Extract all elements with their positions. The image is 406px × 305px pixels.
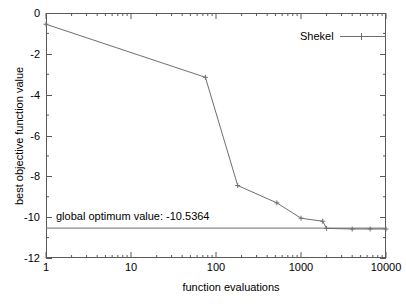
data-point-marker — [350, 227, 355, 232]
data-point-marker — [299, 216, 304, 221]
chart-canvas: 0 -2 -4 -6 -8 -10 -12 1 10 100 1000 1000… — [0, 0, 406, 305]
data-point-marker — [203, 75, 208, 80]
data-point-marker — [324, 226, 329, 231]
data-point-marker — [384, 227, 389, 232]
data-point-marker — [274, 200, 279, 205]
data-point-marker — [235, 183, 240, 188]
data-point-marker — [44, 22, 49, 27]
minor-ticks-group — [46, 13, 386, 258]
data-point-marker — [368, 227, 373, 232]
series-line-shekel — [46, 24, 386, 229]
data-point-marker — [320, 219, 325, 224]
plot-area — [0, 0, 406, 305]
data-series-group — [44, 22, 389, 232]
